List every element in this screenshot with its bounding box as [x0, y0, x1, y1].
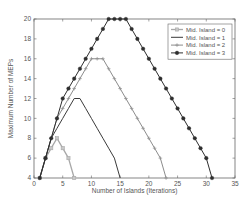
x-tick-label: 15 — [117, 180, 125, 187]
y-tick-label: 6 — [27, 154, 31, 161]
x-tick-label: 35 — [231, 180, 239, 187]
chart-svg: 05101520253035468101214161820 Number of … — [0, 0, 248, 202]
y-tick-label: 12 — [24, 95, 32, 102]
x-axis-label: Number of Islands (Iterations) — [92, 187, 178, 195]
y-tick-label: 16 — [24, 55, 32, 62]
y-tick-label: 8 — [27, 134, 31, 141]
x-tick-label: 10 — [88, 180, 96, 187]
y-tick-label: 10 — [24, 115, 32, 122]
legend-label: Mid. Island = 1 — [186, 35, 226, 41]
y-tick-label: 18 — [24, 35, 32, 42]
y-tick-label: 14 — [24, 75, 32, 82]
x-tick-label: 0 — [32, 180, 36, 187]
legend-label: Mid. Island = 3 — [186, 50, 226, 56]
y-axis-label: Maximum Number of MEPs — [7, 58, 14, 138]
legend-label: Mid. Island = 2 — [186, 42, 226, 48]
x-tick-label: 5 — [61, 180, 65, 187]
legend: Mid. Island = 0Mid. Island = 1Mid. Islan… — [168, 24, 232, 59]
legend-label: Mid. Island = 0 — [186, 27, 226, 33]
x-tick-label: 30 — [203, 180, 211, 187]
chart: 05101520253035468101214161820 Number of … — [0, 0, 248, 202]
y-tick-label: 20 — [24, 15, 32, 22]
x-tick-label: 25 — [174, 180, 182, 187]
y-tick-label: 4 — [27, 174, 31, 181]
x-tick-label: 20 — [145, 180, 153, 187]
